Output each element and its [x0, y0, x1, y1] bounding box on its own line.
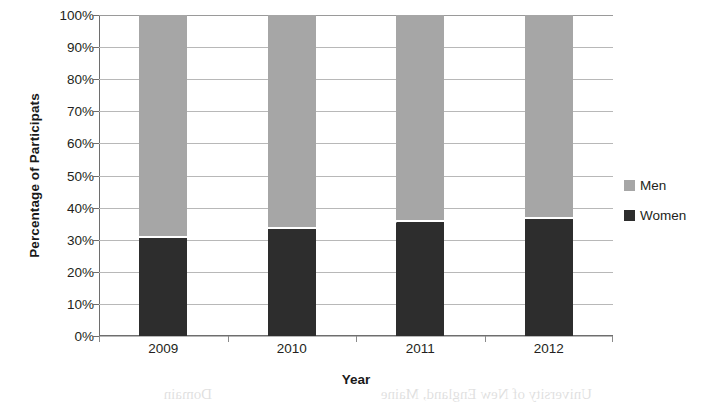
y-tick-label: 10% — [24, 296, 94, 311]
bar-segment-women[interactable] — [525, 217, 573, 336]
y-tick-label: 100% — [24, 8, 94, 23]
bar-group[interactable] — [139, 15, 187, 336]
series-connector-line — [444, 217, 525, 222]
y-tick-label: 30% — [24, 232, 94, 247]
bar-segment-women[interactable] — [396, 220, 444, 336]
y-tick-mark — [93, 304, 99, 305]
segment-separator-line — [268, 227, 316, 229]
chart-figure: Percentage of Participats 0%10%20%30%40%… — [0, 0, 712, 412]
bar-group[interactable] — [525, 15, 573, 336]
y-tick-label: 80% — [24, 72, 94, 87]
segment-separator-line — [139, 236, 187, 238]
y-tick-label: 60% — [24, 136, 94, 151]
y-tick-mark — [93, 79, 99, 80]
x-tick-label: 2009 — [103, 341, 223, 356]
legend-label: Women — [640, 208, 686, 223]
x-axis-tick-labels: 2009201020112012 — [99, 341, 613, 365]
bar-segment-women[interactable] — [139, 237, 187, 337]
y-tick-label: 90% — [24, 40, 94, 55]
y-tick-label: 0% — [24, 329, 94, 344]
y-tick-mark — [93, 240, 99, 241]
legend-label: Men — [640, 178, 666, 193]
y-tick-mark — [93, 15, 99, 16]
bar-segment-women[interactable] — [268, 227, 316, 336]
y-tick-mark — [93, 176, 99, 177]
series-connector-line — [316, 220, 397, 228]
x-axis-title: Year — [99, 372, 613, 387]
y-tick-mark — [93, 208, 99, 209]
bar-segment-men[interactable] — [139, 15, 187, 236]
legend-item-men[interactable]: Men — [624, 178, 710, 193]
bar-segment-men[interactable] — [396, 15, 444, 220]
bar-segment-men[interactable] — [268, 15, 316, 227]
series-connector-line — [187, 227, 268, 239]
plot-area — [99, 15, 613, 336]
bar-segment-men[interactable] — [525, 15, 573, 217]
y-tick-label: 20% — [24, 264, 94, 279]
bar-group[interactable] — [268, 15, 316, 336]
y-tick-label: 70% — [24, 104, 94, 119]
legend-swatch-icon — [624, 210, 635, 221]
legend-item-women[interactable]: Women — [624, 208, 710, 223]
bleed-text-center: University of New England, Maine — [381, 386, 592, 403]
y-tick-label: 50% — [24, 168, 94, 183]
scan-bleedthrough-artifact: University of New England, Maine Domain — [0, 386, 712, 408]
bar-group[interactable] — [396, 15, 444, 336]
y-axis-tick-labels: 0%10%20%30%40%50%60%70%80%90%100% — [24, 0, 94, 412]
y-tick-mark — [93, 272, 99, 273]
y-tick-mark — [93, 143, 99, 144]
bleed-text-left: Domain — [164, 386, 212, 403]
x-tick-label: 2010 — [232, 341, 352, 356]
legend-swatch-icon — [624, 180, 635, 191]
chart-legend: MenWomen — [624, 178, 710, 238]
x-tick-label: 2011 — [360, 341, 480, 356]
y-tick-mark — [93, 111, 99, 112]
y-tick-mark — [93, 47, 99, 48]
y-tick-label: 40% — [24, 200, 94, 215]
x-tick-label: 2012 — [489, 341, 609, 356]
segment-separator-line — [396, 220, 444, 222]
segment-separator-line — [525, 217, 573, 219]
